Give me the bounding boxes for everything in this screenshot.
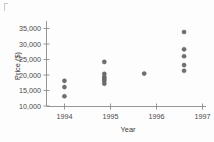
x-axis-title: Year [121, 125, 136, 134]
y-tick-label-35000: 35,000 [19, 24, 41, 33]
y-axis-title: Price ($) [13, 52, 22, 80]
data-point [62, 94, 66, 98]
y-tick-label-15000: 15,000 [19, 86, 41, 95]
y-tick-label-30000: 30,000 [19, 40, 41, 49]
x-tick-label-1995: 1995 [103, 112, 119, 121]
scatter-chart: 35,000 30,000 25,000 20,000 15,000 10,00… [0, 0, 214, 142]
data-point [102, 82, 106, 86]
data-point [182, 30, 186, 34]
y-tick-label-10000: 10,000 [19, 102, 41, 111]
data-point [182, 54, 186, 58]
x-tick-label-1997: 1997 [195, 112, 211, 121]
y-tick-label-20000: 20,000 [19, 71, 41, 80]
x-tick-label-1996: 1996 [149, 112, 165, 121]
data-point [142, 71, 146, 75]
data-point [182, 47, 186, 51]
data-point [62, 79, 66, 83]
data-point [102, 60, 106, 64]
data-point [62, 85, 66, 89]
data-points-group [62, 30, 186, 98]
data-point [182, 63, 186, 67]
data-point [182, 69, 186, 73]
y-tick-label-25000: 25,000 [19, 55, 41, 64]
x-tick-label-1994: 1994 [57, 112, 73, 121]
plot-canvas: 35,000 30,000 25,000 20,000 15,000 10,00… [0, 0, 214, 142]
